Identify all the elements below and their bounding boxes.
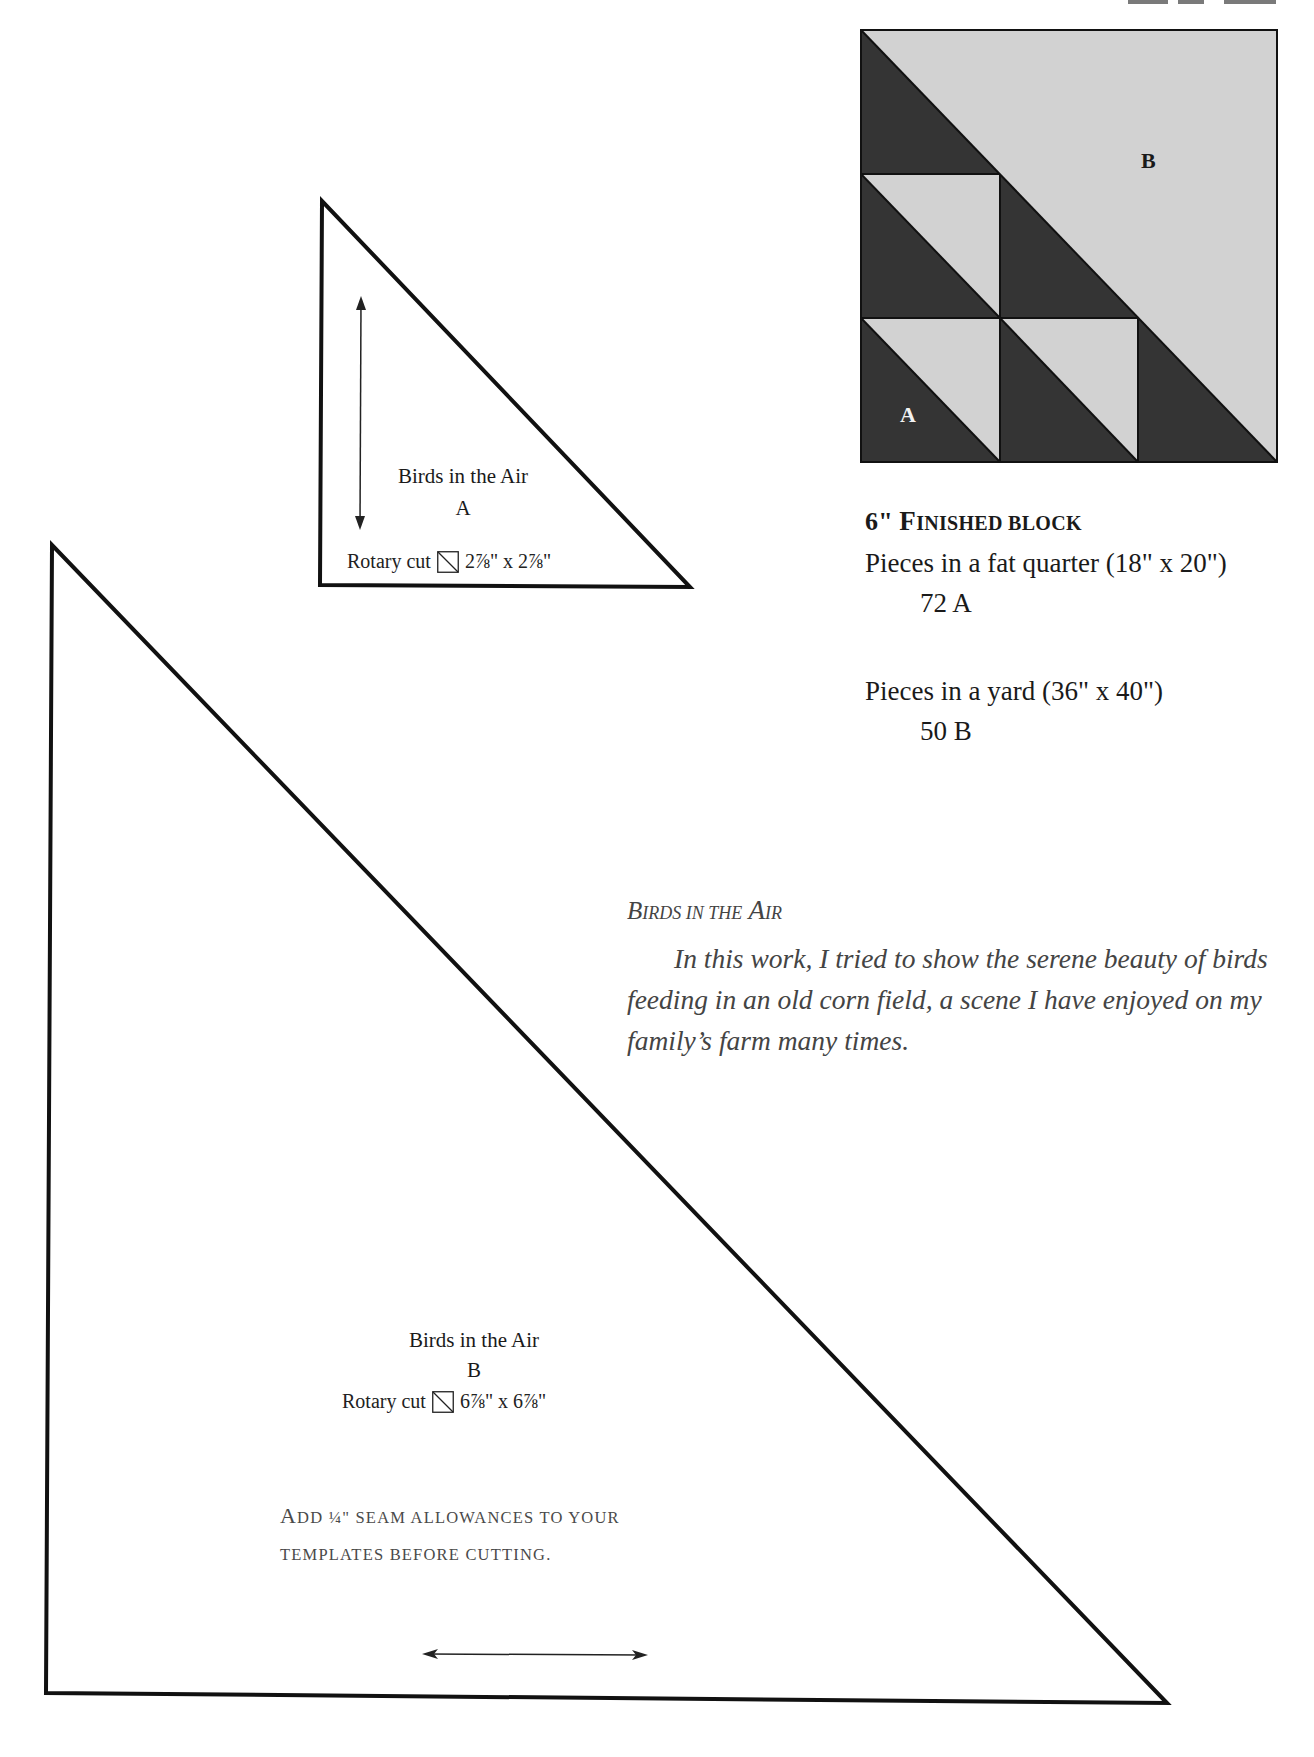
block-label-a: A bbox=[900, 402, 916, 428]
essay-heading-rest: irds in the bbox=[642, 903, 742, 923]
seam-note-line-1: Add ¼" seam allowances to your bbox=[280, 1497, 620, 1536]
quilt-block-diagram bbox=[861, 30, 1277, 462]
fat-quarter-line: Pieces in a fat quarter (18" x 20") bbox=[865, 548, 1227, 579]
template-b-rotary-cut: Rotary cut 6⅞" x 6⅞" bbox=[342, 1390, 546, 1413]
seam-note-line-2: templates before cutting. bbox=[280, 1536, 620, 1573]
essay-heading-cap: B bbox=[627, 897, 642, 924]
template-b-letter: B bbox=[374, 1360, 574, 1381]
template-b-name: Birds in the Air bbox=[374, 1330, 574, 1351]
essay-heading-cap: A bbox=[749, 895, 766, 925]
half-square-triangle-icon bbox=[437, 551, 459, 573]
finished-cap: F bbox=[899, 506, 916, 536]
rotary-cut-size: 6⅞" x 6⅞" bbox=[460, 1390, 546, 1413]
block-label-b: B bbox=[1141, 148, 1156, 174]
half-square-triangle-icon bbox=[432, 1391, 454, 1413]
rotary-cut-size: 2⅞" x 2⅞" bbox=[465, 550, 551, 573]
template-drawings bbox=[0, 0, 1314, 1757]
seam-note-cap: A bbox=[280, 1503, 297, 1528]
yard-count: 50 B bbox=[920, 716, 972, 747]
template-a-letter: A bbox=[363, 498, 563, 519]
rotary-cut-label: Rotary cut bbox=[342, 1390, 426, 1413]
finished-rest: inished block bbox=[916, 512, 1082, 534]
yard-line: Pieces in a yard (36" x 40") bbox=[865, 676, 1163, 707]
fat-quarter-count: 72 A bbox=[920, 588, 972, 619]
seam-allowance-note: Add ¼" seam allowances to your templates… bbox=[280, 1497, 620, 1573]
essay-heading-rest: ir bbox=[765, 903, 782, 923]
template-a-rotary-cut: Rotary cut 2⅞" x 2⅞" bbox=[347, 550, 551, 573]
essay-heading: Birds in the Air bbox=[627, 895, 782, 926]
template-a-name: Birds in the Air bbox=[363, 466, 563, 487]
rotary-cut-label: Rotary cut bbox=[347, 550, 431, 573]
template-a-outline bbox=[320, 201, 690, 587]
seam-note-rest: dd ¼" seam allowances to your bbox=[297, 1508, 620, 1527]
essay-paragraph: In this work, I tried to show the serene… bbox=[627, 938, 1287, 1061]
finished-size: 6" bbox=[865, 507, 893, 536]
finished-block-heading: 6" Finished block bbox=[865, 506, 1082, 537]
